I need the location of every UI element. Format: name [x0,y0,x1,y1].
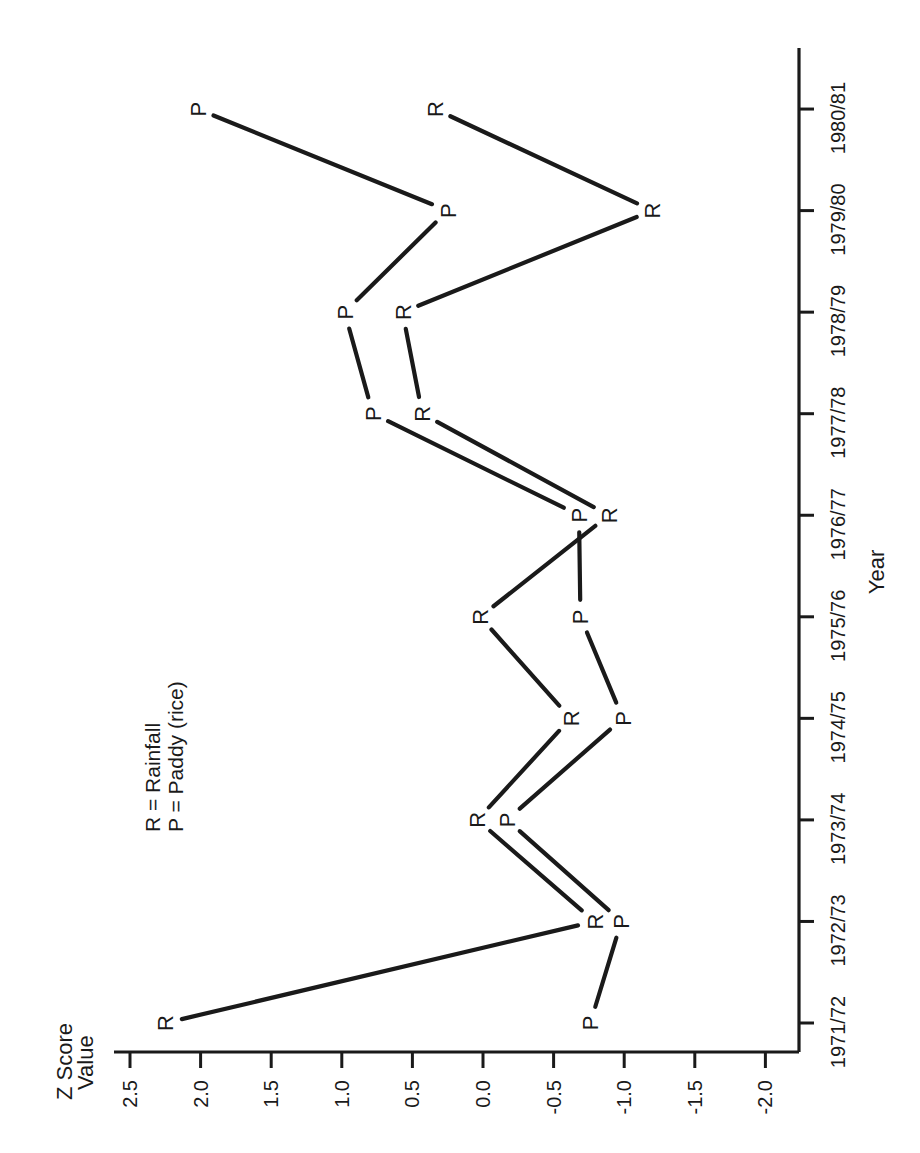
marker-r: R [640,203,665,219]
year-tick-label: 1978/79 [827,285,849,357]
series-segment [489,731,559,807]
z-score-axis-title-line2: Value [73,1035,98,1090]
series-segment [182,925,578,1019]
z-score-ticks: 2.52.01.51.00.50.0-0.5-1.0-1.5-2.0 [119,1052,776,1114]
marker-r: R [559,710,584,726]
year-tick-label: 1979/80 [827,183,849,255]
z-tick-label: -1.0 [613,1080,635,1114]
marker-p: P [609,914,634,929]
series-segment [418,217,636,306]
marker-r: R [391,304,416,320]
series-segment [520,730,610,809]
marker-r: R [597,507,622,523]
z-tick-label: -2.0 [754,1080,776,1114]
z-tick-label: 0.0 [472,1080,494,1108]
z-tick-label: 0.5 [401,1080,423,1108]
series-segment [357,223,436,301]
marker-p: P [495,813,520,828]
z-tick-label: 2.0 [190,1080,212,1108]
marker-p: P [568,609,593,624]
z-tick-label: 2.5 [119,1080,141,1108]
year-tick-label: 1980/81 [827,82,849,154]
year-tick-label: 1977/78 [827,387,849,459]
series-segment [349,329,368,398]
series-segment [406,329,419,397]
z-tick-label: -1.5 [684,1080,706,1114]
series-segment [579,532,580,600]
series-segment [450,116,637,203]
year-tick-label: 1974/75 [827,691,849,763]
marker-p: P [186,102,211,117]
year-tick-label: 1975/76 [827,590,849,662]
series-segment [587,632,616,702]
year-tick-label: 1976/77 [827,488,849,560]
marker-p: P [361,406,386,421]
marker-r: R [465,812,490,828]
marker-r: R [468,609,493,625]
chart: 2.52.01.51.00.50.0-0.5-1.0-1.5-2.0 1971/… [0,0,920,1153]
marker-p: P [567,508,592,523]
legend-rainfall: R = Rainfall [141,723,164,832]
marker-p: P [578,1016,603,1031]
marker-r: R [153,1015,178,1031]
z-tick-label: -0.5 [543,1080,565,1114]
year-axis-title: Year [864,550,889,594]
year-tick-label: 1972/73 [827,894,849,966]
legend: R = Rainfall P = Paddy (rice) [141,681,187,832]
series-segment [388,421,564,508]
marker-p: P [436,203,461,218]
series-segment [491,629,559,705]
legend-paddy: P = Paddy (rice) [164,681,187,832]
marker-r: R [423,101,448,117]
year-tick-label: 1971/72 [827,996,849,1068]
marker-r: R [410,406,435,422]
series-segment [214,115,432,204]
marker-p: P [611,711,636,726]
year-tick-label: 1973/74 [827,793,849,865]
marker-r: R [583,914,608,930]
series-layer: RRRRRRRRRRPPPPPPPPPP [153,101,665,1031]
axes [114,48,799,1052]
marker-p: P [333,305,358,320]
z-tick-label: 1.5 [260,1080,282,1108]
series-segment [595,938,616,1007]
series-paddy-rice: PPPPPPPPPP [186,102,636,1031]
z-tick-label: 1.0 [331,1080,353,1108]
year-ticks: 1971/721972/731973/741974/751975/761976/… [799,82,849,1068]
series-segment [437,422,594,507]
